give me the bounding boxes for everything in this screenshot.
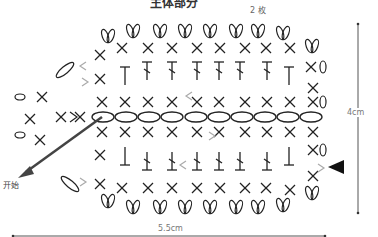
bottom-picot-row xyxy=(100,185,320,214)
foundation-chain xyxy=(92,112,322,122)
height-label: 4cm xyxy=(347,108,364,117)
top-sc-row xyxy=(95,43,295,60)
height-dimension xyxy=(357,23,360,215)
width-dimension xyxy=(12,235,327,237)
crochet-chart xyxy=(0,0,378,237)
end-marker-icon xyxy=(328,160,344,174)
top-picot-row xyxy=(100,23,320,53)
left-edge-stitches xyxy=(15,60,324,194)
bottom-dc-row xyxy=(95,145,318,181)
bottom-sc-row xyxy=(95,179,295,195)
top-dc-row xyxy=(95,62,318,93)
width-label: 5.5cm xyxy=(155,224,186,233)
right-edge-picots xyxy=(320,61,326,156)
start-arrow-icon xyxy=(18,117,102,178)
